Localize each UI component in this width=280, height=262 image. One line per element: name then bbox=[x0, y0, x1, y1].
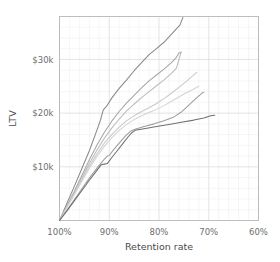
line-series-7 bbox=[60, 115, 215, 220]
line-series-4 bbox=[60, 72, 197, 220]
x-tick-label: 90% bbox=[100, 227, 119, 237]
y-tick-label: $30k bbox=[32, 55, 53, 65]
x-tick-label: 80% bbox=[150, 227, 169, 237]
chart-container: 100%90%80%70%60% $10k$20k$30k Retention … bbox=[0, 0, 280, 262]
y-axis-title: LTV bbox=[7, 110, 18, 127]
x-tick-label: 60% bbox=[249, 227, 268, 237]
x-tick-label: 100% bbox=[47, 227, 71, 237]
x-tick-label: 70% bbox=[199, 227, 218, 237]
x-tick-labels: 100%90%80%70%60% bbox=[47, 227, 268, 237]
ltv-retention-line-chart: 100%90%80%70%60% $10k$20k$30k Retention … bbox=[0, 0, 280, 262]
x-axis-title: Retention rate bbox=[125, 241, 193, 252]
y-tick-label: $10k bbox=[32, 162, 53, 172]
line-series-6 bbox=[60, 92, 204, 220]
y-tick-label: $20k bbox=[32, 108, 53, 118]
line-series-1 bbox=[60, 18, 183, 221]
series-group bbox=[60, 18, 215, 221]
y-tick-labels: $10k$20k$30k bbox=[32, 55, 53, 172]
